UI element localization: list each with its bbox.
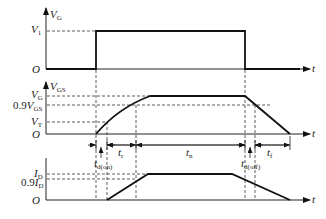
waveform-id [107,174,290,200]
label-tf: tf [267,146,273,160]
origin-label: O [32,128,40,140]
x-axis-label: t [312,193,316,205]
waveform-vg [46,31,300,69]
level-label-v1: V1 [31,23,42,37]
y-axis-label: VG [50,8,62,22]
x-axis-label: t [312,62,316,74]
label-tr: tr [118,146,124,160]
x-axis-label: t [312,127,316,139]
y-axis-label: VGS [50,80,66,94]
label-td-off: td(off) [241,157,261,171]
origin-label: O [32,63,40,75]
label-tn: tn [186,146,193,160]
waveform-vgs [96,96,290,134]
panel-gate-drive: VG t O V1 [31,8,316,75]
interval-annotations: td(on) tr tn td(off) tf [88,136,290,171]
origin-label: O [32,194,40,206]
level-label-vt: VT [31,115,43,129]
label-td-on: td(on) [94,157,113,171]
switching-waveform-diagram: VG t O V1 VGS t O VG 0.9VGS VT [0,0,326,219]
panel-gate-source: VGS t O VG 0.9VGS VT [13,70,316,200]
panel-drain-current: t O ID 0.9ID [21,158,316,206]
